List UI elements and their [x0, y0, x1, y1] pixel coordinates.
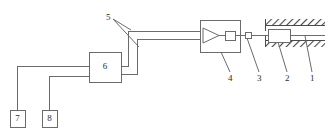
callout-3-leader — [247, 38, 259, 72]
wire-upper — [129, 32, 201, 68]
amplifier-unit — [200, 20, 245, 52]
upper-wall-hatch — [265, 19, 325, 25]
mass-block — [268, 29, 290, 42]
callout-5-leaders — [113, 19, 139, 47]
controller-block-label: 6 — [89, 62, 121, 71]
line-to-device-7 — [18, 67, 90, 111]
callout-5-leader-b — [113, 19, 139, 47]
callout-label-2: 2 — [285, 74, 290, 83]
amplifier-output-square — [225, 31, 235, 40]
callout-label-3: 3 — [257, 74, 262, 83]
callout-label-4: 4 — [228, 74, 233, 83]
line-to-device-8 — [50, 77, 90, 111]
callout-label-5: 5 — [106, 13, 111, 22]
device-box-7-label: 7 — [10, 114, 25, 123]
device-box-8-label: 8 — [42, 114, 57, 123]
callout-label-1: 1 — [310, 74, 315, 83]
device-feed-lines — [18, 67, 90, 111]
diagram-canvas: 5 6 7 8 4 3 2 1 — [0, 0, 329, 139]
callout-4-leader — [221, 52, 230, 72]
sensor-element — [245, 32, 251, 38]
signal-wire-pair — [121, 32, 200, 76]
wire-lower — [138, 40, 201, 76]
